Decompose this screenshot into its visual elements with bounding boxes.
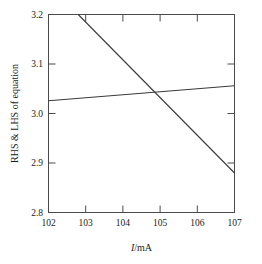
y-axis-title: RHS & LHS of equation <box>9 64 20 163</box>
x-tick-label: 102 <box>41 218 56 228</box>
x-tick-label: 106 <box>190 218 205 228</box>
y-tick-label: 3.2 <box>31 10 43 20</box>
y-tick-label: 3.0 <box>31 109 43 119</box>
y-tick-label: 2.9 <box>31 158 43 168</box>
plot-frame <box>49 15 235 213</box>
y-tick-label: 2.8 <box>31 208 43 218</box>
x-tick-label: 103 <box>79 218 94 228</box>
chart-figure: 3.2 3.1 3.0 2.9 2.8 102 103 104 105 106 … <box>0 0 262 264</box>
line-chart: 3.2 3.1 3.0 2.9 2.8 102 103 104 105 106 … <box>0 0 262 264</box>
x-tick-label: 104 <box>116 218 131 228</box>
x-axis-title: I/mA <box>130 242 153 253</box>
x-tick-labels: 102 103 104 105 106 107 <box>41 218 242 228</box>
x-axis-title-unit: /mA <box>134 242 153 253</box>
x-tick-label: 107 <box>227 218 242 228</box>
y-tick-labels: 3.2 3.1 3.0 2.9 2.8 <box>31 10 43 218</box>
y-tick-label: 3.1 <box>31 59 43 69</box>
x-tick-label: 105 <box>153 218 168 228</box>
